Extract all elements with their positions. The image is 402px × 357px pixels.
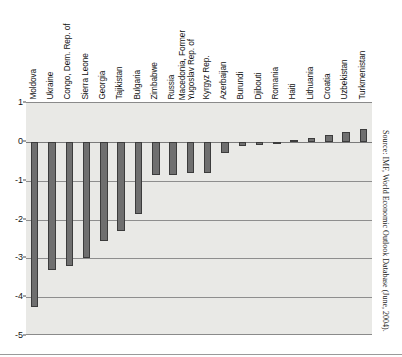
category-label-line: Tajikistan xyxy=(116,67,125,100)
category-label-line: Turkmenistan xyxy=(358,51,367,100)
bar xyxy=(31,142,39,307)
category-label-line: Uzbekistan xyxy=(341,60,350,100)
bar xyxy=(48,142,56,270)
category-label: Congo, Dem. Rep. of xyxy=(64,24,73,100)
category-label: Kyrgyz Rep. xyxy=(202,56,211,100)
category-label: Haiti xyxy=(289,84,298,100)
category-label-line: Ukraine xyxy=(47,72,56,100)
category-label-line: Azerbaijan xyxy=(220,62,229,100)
bar xyxy=(273,142,281,144)
bar xyxy=(308,138,316,142)
bar-series xyxy=(26,103,372,334)
category-label-line: Zimbabwe xyxy=(150,63,159,100)
category-label-line: Kyrgyz Rep. xyxy=(202,56,211,100)
y-tick-label: -3 xyxy=(15,252,23,262)
bar xyxy=(66,142,74,266)
category-label: Uzbekistan xyxy=(341,60,350,100)
bar xyxy=(325,135,333,142)
category-label: Burundi xyxy=(237,72,246,100)
y-tick-label: -4 xyxy=(15,291,23,301)
bar xyxy=(169,142,177,175)
category-label: Romania xyxy=(271,67,280,100)
source-note-container: Source: IMF, World Economic Outlook Data… xyxy=(378,130,392,340)
category-label-line: Moldova xyxy=(29,69,38,100)
category-label: Djibouti xyxy=(254,73,263,100)
bar xyxy=(135,142,143,214)
category-label: Macedonia, FormerYugoslav Rep. of xyxy=(178,30,195,100)
category-label: Ukraine xyxy=(47,72,56,100)
bar xyxy=(204,142,212,173)
category-label: Russia xyxy=(168,75,177,100)
bar xyxy=(83,142,91,259)
bar xyxy=(256,142,264,145)
category-label: Moldova xyxy=(29,69,38,100)
bar xyxy=(117,142,125,231)
category-axis-labels: MoldovaUkraineCongo, Dem. Rep. ofSierra … xyxy=(26,0,372,102)
bar xyxy=(187,142,195,173)
bar xyxy=(221,142,229,154)
chart-figure: 10-1-2-3-4-5 MoldovaUkraineCongo, Dem. R… xyxy=(0,0,402,357)
category-label-line: Burundi xyxy=(237,72,246,100)
category-label: Turkmenistan xyxy=(358,51,367,100)
y-tick-label: -2 xyxy=(15,214,23,224)
category-label: Azerbaijan xyxy=(220,62,229,100)
category-label-line: Yugoslav Rep. of xyxy=(186,30,195,100)
category-label: Croatia xyxy=(323,74,332,100)
category-label-line: Congo, Dem. Rep. of xyxy=(64,24,73,100)
category-label-line: Georgia xyxy=(98,71,107,100)
category-label-line: Djibouti xyxy=(254,73,263,100)
bar xyxy=(360,129,368,141)
category-label-line: Croatia xyxy=(323,74,332,100)
bottom-rule xyxy=(0,354,402,355)
category-label-line: Russia xyxy=(168,75,177,100)
category-label-line: Haiti xyxy=(289,84,298,100)
category-label: Georgia xyxy=(98,71,107,100)
plot-area xyxy=(26,102,372,335)
y-axis: 10-1-2-3-4-5 xyxy=(0,102,26,335)
category-label-line: Lithuania xyxy=(306,67,315,100)
category-label-line: Romania xyxy=(271,67,280,100)
category-label: Tajikistan xyxy=(116,67,125,100)
category-label: Lithuania xyxy=(306,67,315,100)
bar xyxy=(290,140,298,142)
category-label: Bulgaria xyxy=(133,70,142,100)
bar xyxy=(342,132,350,142)
category-label-line: Sierra Leone xyxy=(81,54,90,100)
bar xyxy=(239,142,247,146)
category-label-line: Bulgaria xyxy=(133,70,142,100)
category-label: Zimbabwe xyxy=(150,63,159,100)
bar xyxy=(100,142,108,241)
bar xyxy=(152,142,160,175)
y-tick-label: -1 xyxy=(15,175,23,185)
y-tick-label: -5 xyxy=(15,330,23,340)
source-note: Source: IMF, World Economic Outlook Data… xyxy=(381,130,390,332)
category-label: Sierra Leone xyxy=(81,54,90,100)
